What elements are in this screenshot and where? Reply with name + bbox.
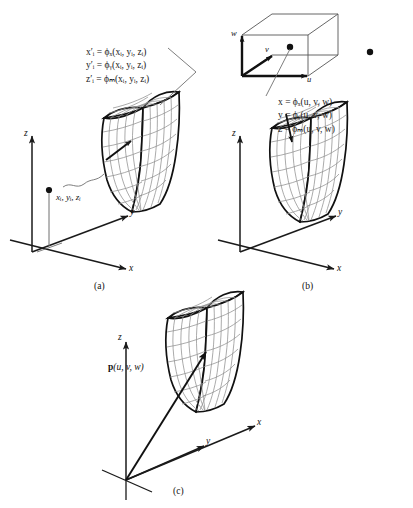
panel-b: w v u x = ϕₓ(u, v, w) y = ϕᵧ(u, v, w) z … bbox=[206, 0, 413, 300]
axis-label-w: w bbox=[231, 28, 237, 38]
axis-label-z-c: z bbox=[118, 332, 122, 342]
equation-x-prime: x′ᵢ = ϕₓ(xᵢ, yᵢ, zᵢ) bbox=[86, 46, 149, 59]
panel-a: x′ᵢ = ϕₓ(xᵢ, yᵢ, zᵢ) y′ᵢ = ϕᵧ(xᵢ, yᵢ, zᵢ… bbox=[0, 0, 206, 300]
panel-a-equations: x′ᵢ = ϕₓ(xᵢ, yᵢ, zᵢ) y′ᵢ = ϕᵧ(xᵢ, yᵢ, zᵢ… bbox=[86, 46, 149, 86]
axis-y bbox=[240, 216, 336, 252]
point-label-a: xᵢ, yᵢ, zᵢ bbox=[56, 192, 81, 202]
detached-point-dot bbox=[367, 49, 373, 55]
deformed-block-a bbox=[102, 92, 180, 212]
axis-x bbox=[218, 240, 334, 269]
panel-a-graphics bbox=[0, 0, 206, 300]
equation-x-uvw: x = ϕₓ(u, v, w) bbox=[278, 96, 335, 109]
axis-x bbox=[126, 426, 255, 480]
axis-x-back bbox=[102, 470, 152, 492]
parametric-cube bbox=[242, 14, 338, 96]
equation-y-prime: y′ᵢ = ϕᵧ(xᵢ, yᵢ, zᵢ) bbox=[86, 59, 149, 72]
deformed-block-c bbox=[166, 292, 244, 412]
caption-a: (a) bbox=[94, 281, 105, 291]
axis-label-y-a: y bbox=[130, 207, 134, 217]
figure-canvas: x′ᵢ = ϕₓ(xᵢ, yᵢ, zᵢ) y′ᵢ = ϕᵧ(xᵢ, yᵢ, zᵢ… bbox=[0, 0, 413, 508]
equation-z-prime: z′ᵢ = ϕₘ(xᵢ, yᵢ, zᵢ) bbox=[86, 73, 149, 86]
equation-z-uvw: z = ϕₘ(u, v, w) bbox=[278, 123, 335, 136]
axis-label-y-b: y bbox=[338, 207, 342, 217]
axis-label-v: v bbox=[265, 44, 269, 54]
wavy-leader-line bbox=[63, 174, 104, 187]
axis-v bbox=[242, 56, 272, 76]
caption-b: (b) bbox=[302, 281, 313, 291]
axis-label-z-a: z bbox=[24, 128, 28, 138]
axis-label-y-c: y bbox=[206, 436, 210, 446]
axis-label-x-a: x bbox=[129, 263, 133, 273]
vector-label-p-args: (u, v, w) bbox=[113, 362, 143, 372]
axis-label-x-c: x bbox=[257, 417, 261, 427]
axis-label-u: u bbox=[307, 74, 311, 84]
axis-label-x-b: x bbox=[337, 263, 341, 273]
sample-point-dot bbox=[46, 187, 52, 193]
equation-y-uvw: y = ϕᵧ(u, v, w) bbox=[278, 109, 335, 122]
axis-x bbox=[10, 240, 126, 269]
cube-point-leader bbox=[266, 49, 290, 96]
equation-leader-line-top bbox=[168, 48, 196, 72]
axis-y bbox=[32, 216, 128, 252]
vector-label-p: p(u, v, w) bbox=[108, 362, 144, 372]
panel-b-graphics bbox=[206, 0, 413, 300]
panel-c: z y x p(u, v, w) (c) bbox=[80, 300, 340, 508]
axis-label-z-b: z bbox=[232, 128, 236, 138]
panel-b-equations: x = ϕₓ(u, v, w) y = ϕᵧ(u, v, w) z = ϕₘ(u… bbox=[278, 96, 335, 136]
caption-c: (c) bbox=[173, 486, 184, 496]
